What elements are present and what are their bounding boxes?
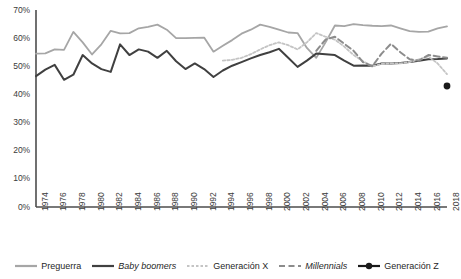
legend-item[interactable]: Millennials (279, 261, 347, 271)
x-tick-label: 2010 (376, 192, 386, 211)
x-tick-label: 2014 (413, 192, 423, 211)
data-point-marker (444, 83, 451, 90)
x-tick-label: 1992 (208, 192, 218, 211)
y-tick-label: 30% (2, 117, 30, 127)
y-tick-label: 0% (2, 202, 30, 212)
x-tick-label: 2008 (357, 192, 367, 211)
series-line (36, 24, 447, 58)
legend-swatch-icon (358, 261, 380, 271)
x-tick-label: 2002 (301, 192, 311, 211)
x-tick-label: 1976 (58, 192, 68, 211)
x-tick-label: 2000 (282, 192, 292, 211)
x-tick-label: 1990 (189, 192, 199, 211)
x-tick-label: 1986 (152, 192, 162, 211)
y-tick-label: 40% (2, 89, 30, 99)
x-tick-label: 1988 (170, 192, 180, 211)
y-tick-label: 60% (2, 33, 30, 43)
x-tick-label: 1978 (77, 192, 87, 211)
legend-swatch-icon (279, 261, 301, 271)
legend-item[interactable]: Baby boomers (92, 261, 176, 271)
x-tick-label: 2018 (451, 192, 461, 211)
y-tick-label: 50% (2, 61, 30, 71)
x-tick-label: 1980 (96, 192, 106, 211)
x-tick-label: 1974 (40, 192, 50, 211)
x-tick-label: 2004 (320, 192, 330, 211)
legend-swatch-icon (92, 261, 114, 271)
x-tick-label: 2016 (432, 192, 442, 211)
x-tick-label: 1982 (114, 192, 124, 211)
legend-label: Baby boomers (118, 261, 176, 271)
legend-label: Generación Z (384, 261, 439, 271)
legend-item[interactable]: Generación Z (358, 261, 439, 271)
legend-swatch-icon (15, 261, 37, 271)
series-line (223, 33, 447, 74)
legend-item[interactable]: Generación X (187, 261, 268, 271)
x-tick-label: 2006 (338, 192, 348, 211)
x-tick-label: 2012 (394, 192, 404, 211)
legend-swatch-icon (187, 261, 209, 271)
y-tick-label: 10% (2, 173, 30, 183)
y-tick-label: 70% (2, 5, 30, 15)
data-series-group (36, 24, 450, 89)
legend-label: Preguerra (41, 261, 81, 271)
y-tick-label: 20% (2, 145, 30, 155)
legend-label: Millennials (305, 261, 347, 271)
legend-label: Generación X (213, 261, 268, 271)
x-tick-label: 1984 (133, 192, 143, 211)
x-tick-label: 1996 (245, 192, 255, 211)
x-tick-label: 1994 (226, 192, 236, 211)
legend-item[interactable]: Preguerra (15, 261, 81, 271)
axis-lines (36, 10, 447, 207)
x-tick-label: 1998 (264, 192, 274, 211)
chart-legend: PreguerraBaby boomersGeneración XMillenn… (0, 256, 454, 276)
